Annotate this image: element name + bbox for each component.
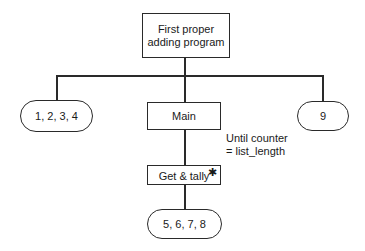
connector-to-left: [56, 75, 58, 100]
node-main-label: Main: [172, 110, 196, 123]
node-root-label-line1: First proper: [158, 23, 214, 36]
connector-main-to-get-tally: [184, 130, 186, 165]
iteration-annotation: Until counter = list_length: [226, 132, 288, 158]
node-root: First proper adding program: [142, 13, 230, 58]
structure-chart: First proper adding program 1, 2, 3, 4 M…: [0, 0, 365, 251]
connector-to-right: [322, 75, 324, 101]
node-get-tally: Get & tally ✱: [147, 165, 221, 185]
node-left-label: 1, 2, 3, 4: [35, 110, 78, 123]
node-left-data: 1, 2, 3, 4: [20, 100, 93, 132]
annotation-line1: Until counter: [226, 132, 288, 145]
node-right-label: 9: [320, 110, 326, 123]
node-get-tally-label: Get & tally: [159, 170, 210, 183]
iteration-star-icon: ✱: [208, 167, 217, 178]
node-root-label-line2: adding program: [147, 36, 224, 49]
connector-get-tally-to-bottom: [184, 185, 186, 209]
node-bottom-label: 5, 6, 7, 8: [163, 218, 206, 231]
connector-root-down: [184, 58, 186, 76]
annotation-line2: = list_length: [226, 145, 288, 158]
connector-horizontal-bar: [56, 75, 323, 77]
connector-to-main: [184, 75, 186, 102]
node-right-data: 9: [297, 101, 349, 131]
node-bottom-data: 5, 6, 7, 8: [147, 209, 222, 239]
node-main: Main: [147, 102, 221, 130]
